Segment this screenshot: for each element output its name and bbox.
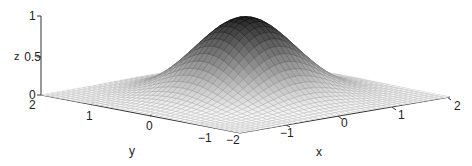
x-tick-m2: −2 — [226, 134, 240, 146]
x-axis-label: x — [316, 146, 322, 158]
x-tick-2: 2 — [454, 100, 461, 112]
x-tick-0: 0 — [341, 117, 348, 129]
x-tick-1: 1 — [398, 109, 405, 121]
x-tick-m1: −1 — [280, 127, 294, 139]
surface-mesh — [41, 17, 450, 133]
z-tick-1: 1 — [29, 10, 36, 22]
y-axis-label: y — [129, 145, 135, 157]
y-tick-0: 0 — [146, 120, 153, 132]
y-tick-1: 1 — [86, 110, 93, 122]
y-tick-2: 2 — [29, 99, 36, 111]
z-tick-05: z 0.5 — [15, 51, 41, 63]
y-tick-m1: −1 — [198, 132, 212, 144]
